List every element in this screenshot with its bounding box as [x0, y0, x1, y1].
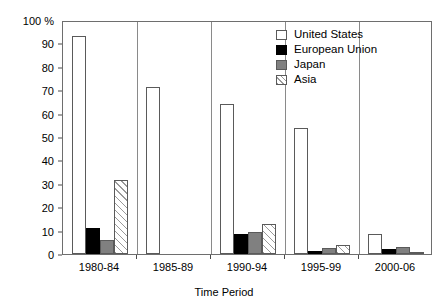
legend-swatch-us [276, 30, 287, 40]
bar-group [63, 22, 137, 254]
x-axis-tick-label: 1985-89 [153, 261, 193, 274]
bar-us-1995-99[interactable] [294, 128, 308, 254]
bar-us-1985-89[interactable] [146, 87, 160, 254]
group-separator [211, 22, 212, 254]
y-axis-tick-label: 70 [42, 86, 54, 97]
bar-us-2000-06[interactable] [368, 234, 382, 254]
y-axis-tick-label: 90 [42, 39, 54, 50]
group-separator [137, 22, 138, 254]
y-axis-tick-label: 10 [42, 226, 54, 237]
legend-item-eu[interactable]: European Union [276, 42, 426, 57]
bar-jp-2000-06[interactable] [396, 247, 410, 254]
y-axis-tick-label: 100 % [23, 16, 54, 27]
y-axis-tick-labels: 0102030405060708090100 % [0, 0, 62, 260]
legend-label-as: Asia [294, 73, 316, 86]
bar-as-1995-99[interactable] [336, 245, 350, 254]
bar-jp-1995-99[interactable] [322, 248, 336, 254]
legend-swatch-jp [276, 60, 287, 70]
x-axis-tick-label: 1990-94 [227, 261, 267, 274]
bar-as-2000-06[interactable] [410, 252, 424, 254]
x-axis-tick-label: 1980-84 [79, 261, 119, 274]
x-axis-title: Time Period [0, 286, 448, 299]
bar-us-1980-84[interactable] [72, 36, 86, 254]
x-axis-tick-marks [62, 255, 432, 260]
x-axis-tick-mark [136, 255, 137, 259]
y-axis-tick-label: 0 [48, 250, 54, 261]
bar-group [137, 22, 211, 254]
x-axis-tick-labels: 1980-841985-891990-941995-992000-06 [62, 261, 432, 277]
y-axis-tick-label: 80 [42, 62, 54, 73]
x-axis-tick-mark [210, 255, 211, 259]
x-axis-tick-mark [284, 255, 285, 259]
bar-eu-2000-06[interactable] [382, 249, 396, 254]
legend-swatch-eu [276, 45, 287, 55]
y-axis-tick-label: 60 [42, 109, 54, 120]
bar-eu-1990-94[interactable] [234, 234, 248, 254]
legend-label-eu: European Union [294, 43, 377, 56]
x-axis-tick-mark [358, 255, 359, 259]
chart-legend: United StatesEuropean UnionJapanAsia [276, 27, 426, 87]
legend-item-us[interactable]: United States [276, 27, 426, 42]
y-axis-tick-label: 40 [42, 156, 54, 167]
y-axis-tick-label: 20 [42, 203, 54, 214]
legend-swatch-as [276, 75, 287, 85]
bar-jp-1990-94[interactable] [248, 232, 262, 254]
bar-eu-1980-84[interactable] [86, 228, 100, 254]
bar-as-1980-84[interactable] [114, 180, 128, 254]
bar-chart-figure: 0102030405060708090100 % 1980-841985-891… [0, 0, 448, 305]
legend-label-jp: Japan [294, 58, 325, 71]
legend-item-as[interactable]: Asia [276, 72, 426, 87]
x-axis-tick-label: 1995-99 [301, 261, 341, 274]
y-axis-tick-label: 50 [42, 133, 54, 144]
bar-as-1990-94[interactable] [262, 224, 276, 254]
legend-label-us: United States [294, 28, 363, 41]
legend-item-jp[interactable]: Japan [276, 57, 426, 72]
bar-eu-1995-99[interactable] [308, 251, 322, 255]
bar-us-1990-94[interactable] [220, 104, 234, 254]
x-axis-tick-label: 2000-06 [375, 261, 415, 274]
bar-jp-1980-84[interactable] [100, 240, 114, 254]
bar-group [211, 22, 285, 254]
y-axis-tick-label: 30 [42, 179, 54, 190]
